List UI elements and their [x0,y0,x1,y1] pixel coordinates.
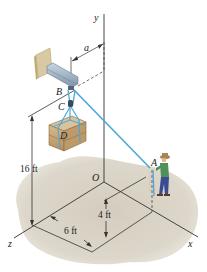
origin-label-O: O [92,172,99,183]
statics-diagram: 16 ft 6 ft 4 ft a [0,0,207,272]
axis-label-y: y [93,12,99,23]
point-label-C: C [58,101,65,112]
pulley-C-block [68,100,73,107]
axis-label-z: z [7,238,12,249]
dim-16ft-label: 16 ft [20,164,38,174]
axis-label-x: x [187,238,193,249]
point-label-B: B [56,86,62,97]
diagram-canvas: 16 ft 6 ft 4 ft a [0,0,207,272]
trolley-B [68,86,74,90]
point-label-A: A [150,157,158,168]
dim-a-arrow-right [98,44,103,49]
dashed-beam-extension [78,71,104,86]
dim-6ft-label: 6 ft [64,226,77,236]
i-beam [47,63,78,87]
dim-a-label: a [84,42,89,53]
dim-a-arrow-left [72,56,78,61]
point-label-D: D [59,130,68,141]
dim-4ft-label: 4 ft [98,210,111,220]
